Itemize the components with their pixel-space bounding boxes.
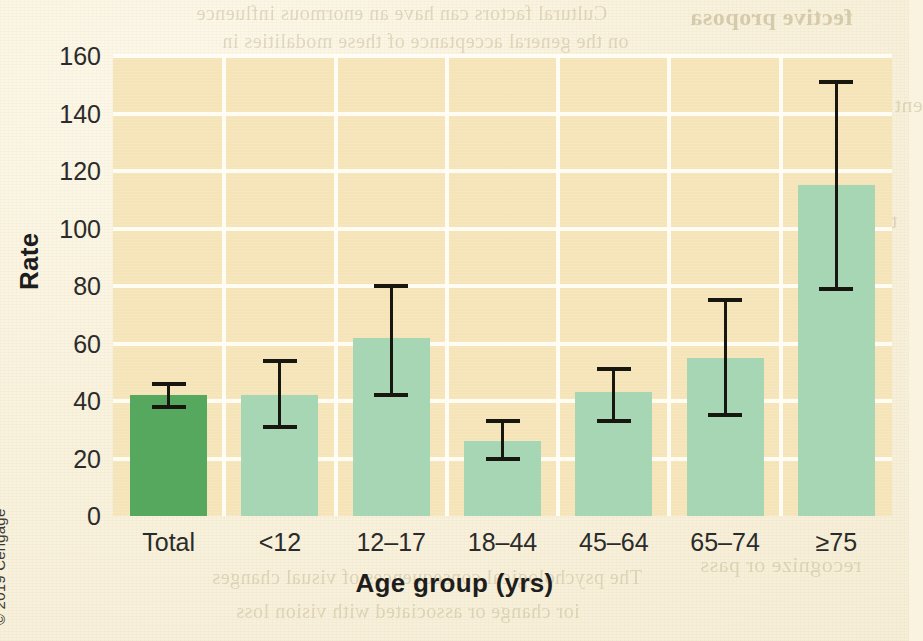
error-bar-cap-upper	[708, 298, 742, 302]
gridline-vertical	[445, 56, 449, 516]
error-bar-line	[501, 421, 504, 458]
x-tick-label: ≥75	[816, 528, 858, 557]
x-tick-label: Total	[142, 528, 195, 557]
error-bar-line	[167, 384, 170, 407]
error-bar-cap-upper	[597, 367, 631, 371]
y-axis-label: Rate	[14, 232, 45, 290]
y-tick-label: 0	[87, 502, 101, 531]
x-tick-label: <12	[259, 528, 301, 557]
gridline-horizontal	[113, 169, 892, 173]
y-tick-label: 20	[73, 444, 101, 473]
gridline-horizontal	[113, 399, 892, 403]
gridline-vertical	[334, 56, 338, 516]
error-bar-cap-lower	[597, 419, 631, 423]
error-bar-cap-upper	[152, 382, 186, 386]
x-tick-label: 65–74	[690, 528, 760, 557]
bar	[130, 395, 207, 516]
gridline-horizontal	[113, 112, 892, 116]
error-bar-cap-upper	[263, 359, 297, 363]
gridline-horizontal	[113, 342, 892, 346]
error-bar-cap-upper	[374, 284, 408, 288]
error-bar-cap-lower	[152, 405, 186, 409]
error-bar-cap-lower	[708, 413, 742, 417]
error-bar-line	[612, 369, 615, 421]
error-bar-line	[278, 361, 281, 427]
error-bar-cap-lower	[486, 457, 520, 461]
copyright-credit: © 2019 Cengage	[0, 509, 8, 625]
y-tick-label: 40	[73, 387, 101, 416]
gridline-horizontal	[113, 227, 892, 231]
error-bar-line	[835, 82, 838, 289]
gridline-horizontal	[113, 54, 892, 58]
gridline-vertical	[667, 56, 671, 516]
x-tick-label: 18–44	[468, 528, 538, 557]
x-tick-label: 45–64	[579, 528, 649, 557]
y-tick-label: 160	[59, 42, 101, 71]
error-bar-cap-lower	[374, 393, 408, 397]
error-bar-cap-lower	[819, 287, 853, 291]
gridline-vertical	[556, 56, 560, 516]
error-bar-cap-upper	[819, 80, 853, 84]
x-axis-label: Age group (yrs)	[0, 568, 909, 599]
y-tick-label: 80	[73, 272, 101, 301]
gridline-horizontal	[113, 284, 892, 288]
y-tick-label: 100	[59, 214, 101, 243]
error-bar-line	[390, 286, 393, 395]
x-tick-label: 12–17	[356, 528, 426, 557]
gridline-vertical	[779, 56, 783, 516]
gridline-vertical	[222, 56, 226, 516]
error-bar-cap-upper	[486, 419, 520, 423]
error-bar-cap-lower	[263, 425, 297, 429]
plot-area: 020406080100120140160 Total<1212–1718–44…	[113, 56, 892, 516]
y-tick-label: 60	[73, 329, 101, 358]
y-tick-label: 120	[59, 157, 101, 186]
y-tick-label: 140	[59, 99, 101, 128]
error-bar-line	[724, 300, 727, 415]
